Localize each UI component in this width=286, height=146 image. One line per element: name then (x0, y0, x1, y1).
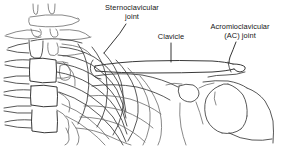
leader-line-sternoclavicular (104, 24, 126, 53)
label-ac-joint-line1: Acromioclavicular (196, 22, 284, 31)
leader-line-ac-joint (229, 42, 236, 63)
label-sternoclavicular-joint: Sternoclavicular joint (91, 3, 173, 21)
label-ac-joint-line2: (AC) joint (196, 31, 284, 40)
acromion-scapula-group (166, 62, 274, 145)
thoracic-spine-group (4, 58, 75, 133)
anatomy-figure: Sternoclavicular joint Clavicle Acromioc… (0, 0, 286, 146)
label-sternoclavicular-line2: joint (91, 12, 173, 21)
label-clavicle-line1: Clavicle (146, 32, 196, 41)
clavicle-group (90, 60, 245, 79)
label-acromioclavicular-joint: Acromioclavicular (AC) joint (196, 22, 284, 40)
label-clavicle: Clavicle (146, 32, 196, 41)
rib-cage-group (57, 44, 178, 145)
label-sternoclavicular-line1: Sternoclavicular (91, 3, 173, 12)
